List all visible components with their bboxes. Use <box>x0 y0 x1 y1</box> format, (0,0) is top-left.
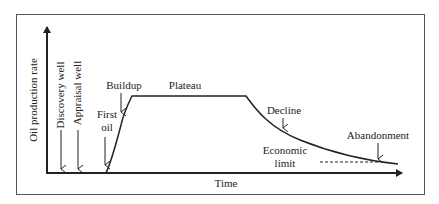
first-oil-label-line1: First <box>97 108 117 120</box>
first-oil-label-line2: oil <box>101 121 113 133</box>
production-profile-diagram: Oil production rate Time Discovery well … <box>0 0 439 204</box>
discovery-well-label: Discovery well <box>54 62 66 129</box>
x-axis-label: Time <box>215 177 238 189</box>
appraisal-well-label: Appraisal well <box>71 61 83 125</box>
buildup-label: Buildup <box>106 79 142 91</box>
economic-limit-label-line1: Economic <box>263 144 308 156</box>
decline-label: Decline <box>267 104 301 116</box>
economic-limit-label-line2: limit <box>275 157 296 169</box>
plateau-label: Plateau <box>169 79 202 91</box>
abandonment-label: Abandonment <box>347 129 409 141</box>
y-axis-label: Oil production rate <box>27 58 39 142</box>
